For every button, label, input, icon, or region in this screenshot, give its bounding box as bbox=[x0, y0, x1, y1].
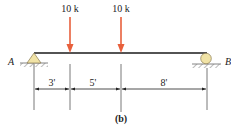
dimension-label-3: 8' bbox=[161, 77, 168, 88]
dimension-label-2: 5' bbox=[90, 77, 97, 88]
dimension-extension-lines bbox=[34, 64, 207, 112]
ground-hatch-left bbox=[20, 63, 48, 67]
support-label-b: B bbox=[225, 56, 231, 67]
roller-support-icon bbox=[201, 53, 212, 64]
ground-hatch-right bbox=[192, 64, 221, 68]
load-label-1: 10 k bbox=[61, 3, 79, 14]
dimension-label-1: 3' bbox=[49, 77, 56, 88]
arrow-down-icon bbox=[67, 44, 74, 53]
support-label-a: A bbox=[7, 56, 15, 67]
pin-support-icon bbox=[27, 53, 41, 63]
point-load-1: 10 k bbox=[61, 3, 79, 53]
beam-diagram: 3' 5' 8' A B 10 k 10 k (b) bbox=[0, 0, 231, 129]
figure-caption: (b) bbox=[115, 113, 127, 125]
arrow-down-icon bbox=[118, 44, 125, 53]
load-label-2: 10 k bbox=[112, 3, 130, 14]
point-load-2: 10 k bbox=[112, 3, 130, 53]
